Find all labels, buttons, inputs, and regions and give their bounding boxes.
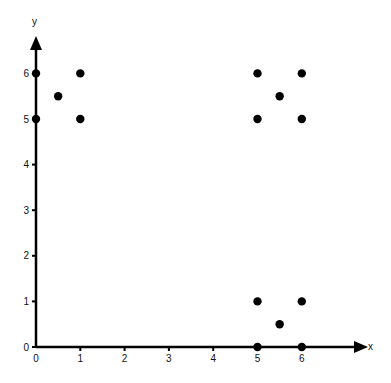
data-point (76, 115, 84, 123)
x-tick-label: 4 (210, 353, 216, 364)
data-point (298, 297, 306, 305)
axes: x y (30, 16, 373, 353)
y-axis-label: y (32, 16, 37, 27)
x-axis-arrow-icon (354, 341, 368, 353)
x-tick-label: 3 (166, 353, 172, 364)
data-point (253, 343, 261, 351)
data-point (253, 69, 261, 77)
y-tick-label: 6 (23, 68, 29, 79)
x-tick-label: 5 (255, 353, 261, 364)
y-tick-label: 2 (23, 250, 29, 261)
data-point (253, 115, 261, 123)
y-tick-label: 1 (23, 296, 29, 307)
y-tick-label: 3 (23, 205, 29, 216)
x-tick-label: 0 (33, 353, 39, 364)
data-point (298, 343, 306, 351)
y-axis-arrow-icon (30, 36, 42, 50)
x-tick-label: 1 (78, 353, 84, 364)
data-point (275, 320, 283, 328)
data-point (253, 297, 261, 305)
data-point (32, 115, 40, 123)
scatter-chart: x y 0123456 0123456 (0, 0, 391, 383)
data-points (32, 69, 306, 351)
y-tick-label: 4 (23, 159, 29, 170)
x-ticks: 0123456 (33, 347, 305, 364)
y-tick-label: 0 (23, 342, 29, 353)
data-point (76, 69, 84, 77)
data-point (298, 115, 306, 123)
data-point (54, 92, 62, 100)
data-point (275, 92, 283, 100)
data-point (298, 69, 306, 77)
data-point (32, 69, 40, 77)
x-tick-label: 6 (299, 353, 305, 364)
y-tick-label: 5 (23, 114, 29, 125)
x-axis-label: x (368, 341, 373, 352)
y-ticks: 0123456 (23, 68, 36, 353)
x-tick-label: 2 (122, 353, 128, 364)
